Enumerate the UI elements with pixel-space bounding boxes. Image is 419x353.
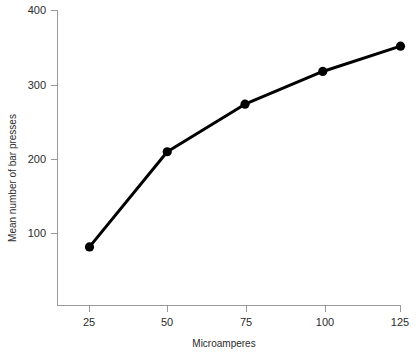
data-point	[163, 147, 172, 156]
y-tick-label-400: 400	[28, 4, 46, 16]
x-tick-labels: 25 50 75 100 125	[83, 316, 409, 328]
y-tick-label-200: 200	[28, 153, 46, 165]
data-point	[396, 42, 405, 51]
y-tick-label-100: 100	[28, 227, 46, 239]
data-point	[240, 100, 249, 109]
x-tick-marks	[90, 306, 401, 313]
data-markers-series-0	[85, 42, 405, 252]
x-axis-title: Microamperes	[192, 338, 255, 349]
y-tick-labels: 100 200 300 400	[28, 4, 46, 239]
chart-canvas: 100 200 300 400 25 50 75 100 125 Microam…	[0, 0, 419, 353]
x-tick-label-100: 100	[316, 316, 334, 328]
x-tick-label-50: 50	[161, 316, 173, 328]
x-tick-label-25: 25	[83, 316, 95, 328]
y-tick-label-300: 300	[28, 79, 46, 91]
y-axis-title: Mean number of bar presses	[7, 114, 18, 242]
data-point	[318, 67, 327, 76]
data-line-series-0	[90, 46, 401, 247]
line-chart-figure: 100 200 300 400 25 50 75 100 125 Microam…	[0, 0, 419, 353]
x-tick-label-125: 125	[391, 316, 409, 328]
axis-group	[58, 10, 401, 306]
y-tick-marks	[51, 11, 58, 234]
x-tick-label-75: 75	[240, 316, 252, 328]
data-point	[85, 242, 94, 251]
